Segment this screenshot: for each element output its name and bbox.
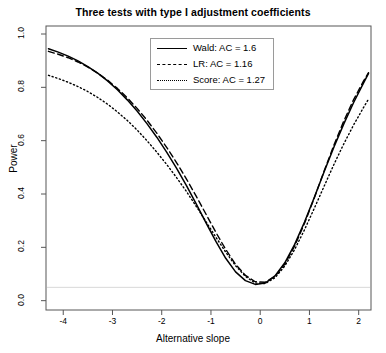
x-tick-label: 1	[297, 316, 321, 326]
legend-item-lr: LR: AC = 1.16	[157, 57, 271, 73]
y-tick-label: 0.0	[16, 287, 26, 313]
legend-key-dotted-icon	[157, 80, 187, 83]
x-tick-label: -3	[100, 316, 124, 326]
x-tick-label: -2	[150, 316, 174, 326]
x-tick-label: -4	[51, 316, 75, 326]
legend-item-wald: Wald: AC = 1.6	[157, 41, 271, 57]
legend-label-score: Score: AC = 1.27	[193, 74, 265, 85]
y-tick-label: 0.4	[16, 180, 26, 206]
legend-key-solid-icon	[157, 48, 187, 51]
chart-title: Three tests with type I adjustment coeff…	[0, 6, 386, 18]
y-tick-label: 0.6	[16, 127, 26, 153]
x-tick-label: 0	[248, 316, 272, 326]
legend-key-dashed-icon	[157, 64, 187, 67]
x-axis-label: Alternative slope	[0, 333, 386, 344]
y-tick-label: 1.0	[16, 20, 26, 46]
y-tick-label: 0.8	[16, 73, 26, 99]
legend-item-score: Score: AC = 1.27	[157, 73, 271, 89]
x-tick-label: 2	[347, 316, 371, 326]
x-tick-label: -1	[199, 316, 223, 326]
y-tick-label: 0.2	[16, 233, 26, 259]
legend-label-lr: LR: AC = 1.16	[193, 58, 252, 69]
chart-container: Three tests with type I adjustment coeff…	[0, 0, 386, 353]
legend-label-wald: Wald: AC = 1.6	[193, 42, 256, 53]
legend: Wald: AC = 1.6 LR: AC = 1.16 Score: AC =…	[150, 38, 274, 90]
